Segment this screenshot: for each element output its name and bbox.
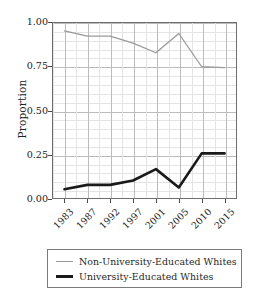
y-axis-tick-mark	[48, 199, 52, 200]
x-axis-tick-mark	[202, 199, 203, 203]
y-axis-tick-label: 0.00	[18, 194, 48, 204]
y-axis-tick-label: 0.50	[18, 106, 48, 116]
legend-item-university: University-Educated Whites	[48, 269, 241, 284]
series-lines	[53, 23, 236, 198]
legend-label-non-university: Non-University-Educated Whites	[79, 256, 237, 267]
y-axis-tick-label: 0.25	[18, 150, 48, 160]
legend-swatch-university-line	[56, 275, 73, 278]
plot-area	[52, 22, 237, 199]
chart-legend: Non-University-Educated Whites Universit…	[47, 249, 242, 288]
x-axis-tick-mark	[64, 199, 65, 203]
x-axis-tick-mark	[87, 199, 88, 203]
legend-item-non-university: Non-University-Educated Whites	[48, 254, 241, 269]
y-axis-tick-mark	[48, 155, 52, 156]
legend-swatch-non-university-line	[56, 261, 73, 262]
x-axis-tick-label: 2001	[143, 206, 168, 231]
x-axis-tick-label: 2010	[189, 206, 214, 231]
x-axis-tick-mark	[225, 199, 226, 203]
y-axis-tick-mark	[48, 111, 52, 112]
y-axis-tick-mark	[48, 66, 52, 67]
x-axis-tick-label: 2015	[212, 206, 237, 231]
series-line-university	[64, 153, 224, 189]
x-axis-tick-label: 1983	[51, 206, 76, 231]
x-axis-tick-mark	[110, 199, 111, 203]
y-axis-tick-label: 0.75	[18, 61, 48, 71]
y-axis-tick-label: 1.00	[18, 17, 48, 27]
x-axis-tick-label: 1992	[97, 206, 122, 231]
x-axis-tick-mark	[156, 199, 157, 203]
line-chart-figure: Proportion 0.000.250.500.751.00 19831987…	[0, 0, 253, 297]
x-axis-tick-mark	[179, 199, 180, 203]
x-axis-tick-label: 1987	[74, 206, 99, 231]
x-axis-tick-label: 1997	[120, 206, 145, 231]
y-axis-tick-labels: 0.000.250.500.751.00	[16, 0, 48, 297]
series-line-non-university	[64, 31, 224, 68]
x-axis-tick-mark	[133, 199, 134, 203]
legend-label-university: University-Educated Whites	[79, 271, 213, 282]
x-axis-tick-label: 2005	[166, 206, 191, 231]
x-axis-tick-labels: 19831987199219972001200520102015	[52, 199, 237, 245]
y-axis-tick-mark	[48, 22, 52, 23]
